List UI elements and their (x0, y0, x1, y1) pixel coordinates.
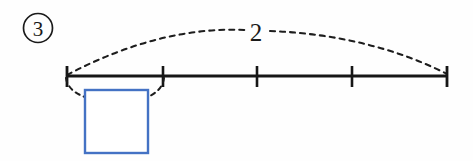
problem-number-badge: 3 (24, 14, 53, 43)
worksheet-figure: 3 2 (0, 0, 473, 161)
upper-arc-right-segment (270, 31, 447, 74)
problem-number-label: 3 (33, 17, 44, 41)
upper-arc-left-segment (67, 30, 245, 75)
number-line-diagram: 3 2 (0, 0, 473, 161)
answer-box[interactable] (85, 90, 148, 153)
upper-arc-label: 2 (250, 19, 263, 46)
